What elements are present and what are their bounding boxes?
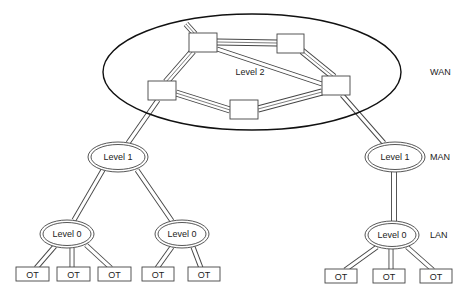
- link-r5-r3: [258, 92, 322, 109]
- link-l0-left-ot1: [36, 246, 55, 268]
- level0-label: Level 0: [52, 229, 81, 239]
- tier-label-lan: LAN: [430, 230, 448, 240]
- tier-label-man: MAN: [430, 152, 450, 162]
- link-r1-r4: [166, 51, 193, 82]
- level0-label: Level 0: [167, 229, 196, 239]
- svg-text:OT: OT: [198, 270, 211, 280]
- level1-node-right[interactable]: Level 1: [365, 142, 425, 172]
- terminals: OT OT OT OT OT OT OT OT: [16, 267, 452, 283]
- terminal-ot[interactable]: OT: [142, 267, 174, 281]
- router-box[interactable]: [230, 100, 258, 119]
- router-box[interactable]: [148, 81, 176, 100]
- level0-node-right[interactable]: Level 0: [365, 221, 419, 249]
- level1-label: Level 1: [103, 152, 132, 162]
- level1-node-left[interactable]: Level 1: [88, 142, 148, 172]
- svg-text:OT: OT: [383, 272, 396, 282]
- router-box[interactable]: [189, 33, 217, 52]
- network-hierarchy-diagram: Level 2 Level 1 Level 1 Level 0 Level 0 …: [0, 0, 466, 296]
- level0-label: Level 0: [377, 230, 406, 240]
- wan-region-label: Level 2: [235, 67, 264, 77]
- link-l0-right-ot6: [345, 247, 377, 270]
- svg-text:OT: OT: [67, 270, 80, 280]
- level1-label: Level 1: [380, 152, 409, 162]
- link-r1-external: [186, 24, 195, 34]
- link-l1-left-l0-left: [74, 170, 103, 220]
- svg-text:OT: OT: [108, 270, 121, 280]
- link-l0-left-ot3: [86, 245, 111, 268]
- link-l0-mid-ot5: [193, 247, 201, 268]
- link-l1-left-l0-mid: [137, 170, 172, 221]
- router-box[interactable]: [277, 34, 304, 53]
- terminal-ot[interactable]: OT: [188, 267, 220, 281]
- link-r3-l1-right: [342, 95, 384, 143]
- terminal-ot[interactable]: OT: [57, 267, 90, 281]
- svg-text:OT: OT: [152, 270, 165, 280]
- router-box[interactable]: [322, 76, 350, 95]
- link-r4-r5: [176, 93, 230, 110]
- level0-node-left[interactable]: Level 0: [40, 220, 94, 248]
- tier-label-wan: WAN: [430, 67, 451, 77]
- tier-labels: WAN MAN LAN: [430, 67, 451, 240]
- svg-text:OT: OT: [26, 270, 39, 280]
- svg-text:OT: OT: [430, 272, 443, 282]
- terminal-ot[interactable]: OT: [16, 267, 49, 281]
- link-l0-right-ot8: [407, 247, 433, 270]
- terminal-ot[interactable]: OT: [325, 269, 357, 283]
- level0-node-middle[interactable]: Level 0: [155, 220, 209, 248]
- link-l0-mid-ot4: [157, 247, 172, 268]
- terminal-ot[interactable]: OT: [98, 267, 131, 281]
- link-r2-r3: [302, 51, 334, 77]
- terminal-ot[interactable]: OT: [373, 269, 405, 283]
- link-r1-r2: [217, 42, 277, 43]
- svg-text:OT: OT: [335, 272, 348, 282]
- terminal-ot[interactable]: OT: [420, 269, 452, 283]
